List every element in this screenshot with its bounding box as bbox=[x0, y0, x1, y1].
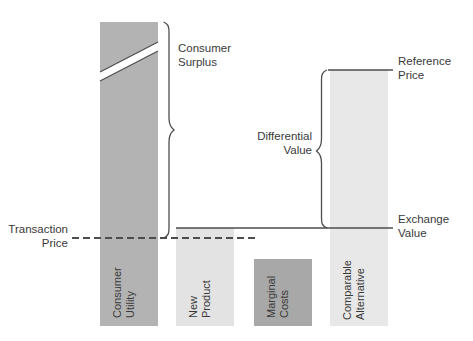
bar-label-marginal-costs-line1: Marginal bbox=[265, 276, 277, 318]
label-differential-value: Differential Value bbox=[257, 130, 312, 156]
bar-label-consumer-utility-line2: Utility bbox=[124, 291, 136, 318]
differential-value-line2: Value bbox=[283, 144, 312, 156]
reference-price-line1: Reference bbox=[398, 55, 451, 67]
customer-value-diagram: Consumer Utility New Product Marginal Co… bbox=[0, 0, 473, 341]
bar-label-consumer-utility-line1: Consumer bbox=[111, 267, 123, 318]
differential-value-brace bbox=[317, 70, 328, 228]
exchange-value-line1: Exchange bbox=[398, 213, 449, 225]
bar-marginal-costs: Marginal Costs bbox=[254, 259, 312, 326]
bar-label-new-product-line2: Product bbox=[200, 280, 212, 318]
bar-label-comparable-alternative-line1: Comparable bbox=[341, 260, 353, 320]
transaction-price-line2: Price bbox=[42, 237, 68, 249]
bar-label-marginal-costs-line2: Costs bbox=[278, 289, 290, 318]
transaction-price-line1: Transaction bbox=[8, 223, 68, 235]
bar-new-product: New Product bbox=[176, 228, 234, 326]
bar-consumer-utility: Consumer Utility bbox=[100, 22, 158, 326]
consumer-surplus-line1: Consumer bbox=[178, 42, 231, 54]
bar-label-comparable-alternative-line2: Alternative bbox=[354, 268, 366, 320]
exchange-value-line2: Value bbox=[398, 227, 427, 239]
label-reference-price: Reference Price bbox=[398, 55, 451, 81]
label-exchange-value: Exchange Value bbox=[398, 213, 449, 239]
bar-label-new-product-line1: New bbox=[187, 296, 199, 318]
label-transaction-price: Transaction Price bbox=[8, 223, 68, 249]
consumer-surplus-line2: Surplus bbox=[178, 56, 217, 68]
bar-comparable-alternative: Comparable Alternative bbox=[330, 70, 388, 326]
differential-value-line1: Differential bbox=[257, 130, 312, 142]
consumer-surplus-brace bbox=[164, 22, 175, 238]
diagram-canvas: Consumer Utility New Product Marginal Co… bbox=[0, 0, 473, 341]
reference-price-line2: Price bbox=[398, 69, 424, 81]
label-consumer-surplus: Consumer Surplus bbox=[178, 42, 231, 68]
